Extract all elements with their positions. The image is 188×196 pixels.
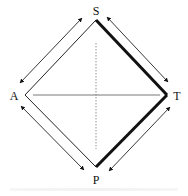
node-label-t: T [173, 90, 180, 102]
edge-s-t-thick [96, 20, 167, 95]
faint-caption-strip [10, 188, 178, 191]
double-arrow-s-t [107, 17, 168, 82]
edge-s-a [25, 20, 96, 95]
edge-p-t-thick [96, 95, 167, 167]
double-arrow-s-a [20, 18, 82, 83]
node-label-a: A [10, 90, 19, 102]
diamond-diagram [0, 0, 188, 196]
node-label-p: P [93, 174, 100, 186]
node-label-s: S [93, 5, 100, 17]
double-arrow-p-t [109, 107, 170, 171]
double-arrow-a-p [21, 106, 84, 170]
edge-a-p [25, 95, 96, 167]
